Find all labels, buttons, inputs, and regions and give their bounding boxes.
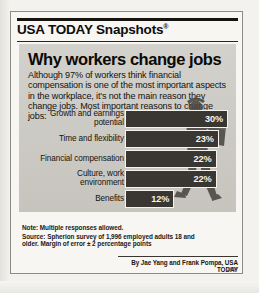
header-top-rule [17, 18, 238, 21]
bar-label: Time and flexibility [40, 135, 124, 144]
bar-value: 30% [205, 114, 223, 124]
bar-fill: 23% [125, 130, 219, 148]
bar-row: Time and flexibility 23% [28, 130, 228, 148]
bar-row: Benefits 12% [28, 190, 228, 208]
date-code: 3607 [110, 266, 238, 272]
bar-value: 22% [194, 154, 212, 164]
bar-chart: Growth and earnings potential 30% Time a… [28, 110, 228, 208]
bar-track: 22% [125, 170, 228, 188]
byline-rule [118, 256, 238, 257]
header-bottom-rule [17, 41, 238, 42]
bar-fill: 22% [125, 150, 217, 168]
headline: Why workers change jobs [28, 50, 228, 68]
bar-value: 22% [194, 174, 212, 184]
note-text: Note: Multiple responses allowed. [22, 224, 212, 231]
brand-title: USA TODAY Snapshots® [17, 22, 242, 39]
bar-track: 12% [125, 190, 228, 208]
source-text: Source: Spherion survey of 1,996 employe… [22, 233, 212, 248]
registered-trademark-icon: ® [163, 23, 168, 30]
bar-track: 23% [125, 130, 228, 148]
scan-edge-shading-left [0, 0, 10, 293]
bar-track: 30% [125, 110, 228, 128]
footnotes: Note: Multiple responses allowed. Source… [22, 224, 212, 248]
content-panel: Why workers change jobs Although 97% of … [19, 44, 236, 212]
bar-row: Growth and earnings potential 30% [28, 110, 228, 128]
bar-fill: 22% [125, 170, 217, 188]
bar-value: 23% [196, 134, 214, 144]
bar-label: Growth and earnings potential [40, 110, 124, 127]
bar-label: Financial compensation [40, 155, 124, 164]
bar-track: 22% [125, 150, 228, 168]
bar-fill: 12% [125, 190, 174, 208]
snapshot-page: USA TODAY Snapshots® Why workers change … [0, 0, 259, 293]
bar-fill: 30% [125, 110, 228, 128]
brand-title-text: USA TODAY Snapshots [17, 22, 163, 37]
bar-label: Benefits [40, 195, 124, 204]
bar-label: Culture, work environment [40, 170, 124, 187]
scan-edge-shading-bottom [0, 281, 259, 293]
bar-row: Financial compensation 22% [28, 150, 228, 168]
bar-value: 12% [151, 194, 169, 204]
bar-row: Culture, work environment 22% [28, 170, 228, 188]
